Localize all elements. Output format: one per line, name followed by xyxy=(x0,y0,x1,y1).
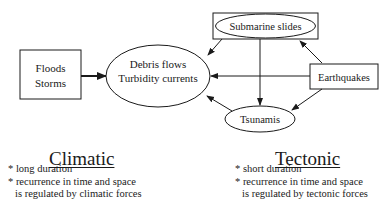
tectonic-bullet-recurrence: * recurrence in time and space xyxy=(235,176,368,189)
earthquakes-label: Earthquakes xyxy=(318,72,370,83)
submarine-slides-label: Submarine slides xyxy=(229,21,301,32)
climatic-bullets: * long duration * recurrence in time and… xyxy=(8,163,142,201)
arrow-tsunamis-to-debris xyxy=(207,96,232,111)
floods-storms-node: Floods Storms xyxy=(20,50,81,99)
tsunamis-node: Tsunamis xyxy=(225,106,295,132)
floods-label: Floods xyxy=(36,62,66,74)
turbidity-currents-label: Turbidity currents xyxy=(118,72,197,84)
arrow-earthquakes-to-slides xyxy=(300,41,322,63)
earthquakes-node: Earthquakes xyxy=(310,64,378,89)
arrow-slides-to-debris xyxy=(208,39,222,55)
submarine-slides-node: Submarine slides xyxy=(213,13,318,39)
climatic-bullet-duration: * long duration xyxy=(8,163,142,176)
climatic-bullet-recurrence-cont: is regulated by climatic forces xyxy=(8,188,142,201)
arrow-earthquakes-to-tsunamis xyxy=(292,89,322,110)
debris-flows-label: Debris flows xyxy=(130,58,187,70)
tectonic-bullets: * short duration * recurrence in time an… xyxy=(235,163,368,201)
debris-flows-node: Debris flows Turbidity currents xyxy=(106,45,210,107)
tectonic-bullet-duration: * short duration xyxy=(235,163,368,176)
storms-label: Storms xyxy=(35,77,66,89)
climatic-bullet-recurrence: * recurrence in time and space xyxy=(8,176,142,189)
tectonic-bullet-recurrence-cont: is regulated by tectonic forces xyxy=(235,188,368,201)
tsunamis-label: Tsunamis xyxy=(240,114,280,125)
